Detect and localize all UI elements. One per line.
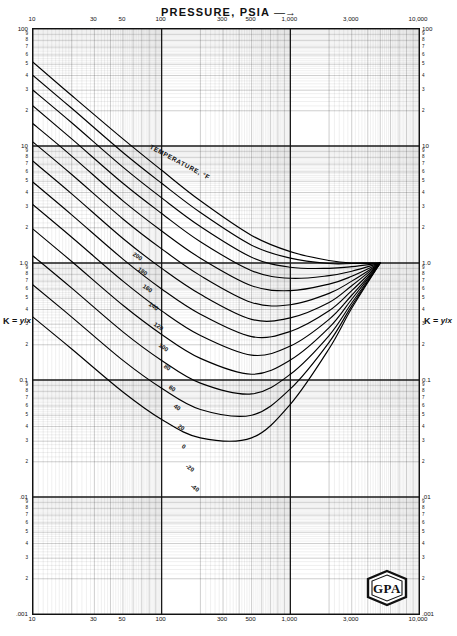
y-minor-tick-label: 3	[25, 438, 28, 443]
x-tick-label: 100	[155, 615, 165, 622]
y-minor-tick-label: 4	[422, 540, 425, 545]
y-minor-tick-label: 4	[25, 423, 28, 428]
y-minor-tick-label: 8	[25, 37, 28, 42]
x-tick-label: 1,000	[282, 615, 297, 622]
k-prefix-right: K =	[424, 316, 441, 326]
y-minor-tick-label: 3	[25, 555, 28, 560]
isotherm-curve	[33, 256, 380, 394]
x-tick-label: 50	[118, 615, 125, 622]
x-tick-label: 500	[245, 615, 255, 622]
y-minor-tick-label: 5	[25, 529, 28, 534]
y-minor-tick-label: 2	[422, 341, 425, 346]
gpa-logo: GPA	[364, 569, 410, 607]
y-minor-tick-label: 8	[25, 505, 28, 510]
y-axis-title-left: K = y/x	[3, 316, 31, 326]
y-minor-tick-label: 2	[25, 575, 28, 580]
y-minor-tick-label: 8	[25, 271, 28, 276]
y-minor-tick-label: 9	[25, 499, 28, 504]
x-tick-label: 300	[217, 615, 227, 622]
x-tick-label: 100	[155, 15, 165, 22]
y-minor-tick-label: 6	[422, 285, 425, 290]
y-minor-tick-label: 5	[25, 178, 28, 183]
y-minor-tick-label: 6	[422, 402, 425, 407]
y-tick-label: .001	[16, 610, 28, 617]
y-minor-tick-label: 7	[25, 395, 28, 400]
y-minor-tick-label: 5	[422, 61, 425, 66]
y-minor-tick-label: 9	[25, 382, 28, 387]
y-minor-tick-label: 3	[422, 438, 425, 443]
y-minor-tick-label: 2	[422, 575, 425, 580]
y-minor-tick-label: 9	[422, 499, 425, 504]
y-minor-tick-label: 3	[422, 555, 425, 560]
y-minor-tick-label: 7	[422, 161, 425, 166]
y-minor-tick-label: 9	[25, 148, 28, 153]
isotherm-curve	[33, 263, 380, 416]
y-minor-tick-label: 4	[25, 72, 28, 77]
y-minor-tick-label: 9	[422, 382, 425, 387]
y-minor-tick-label: 2	[25, 224, 28, 229]
isotherm-curve	[33, 205, 380, 356]
y-minor-tick-label: 2	[25, 458, 28, 463]
isotherm-curve	[33, 62, 380, 263]
y-minor-tick-label: 4	[422, 189, 425, 194]
y-minor-tick-label: 9	[422, 31, 425, 36]
y-minor-tick-label: 4	[25, 189, 28, 194]
y-minor-tick-label: 8	[25, 388, 28, 393]
y-minor-tick-label: 8	[25, 154, 28, 159]
x-tick-label: 3,000	[343, 615, 358, 622]
y-minor-tick-label: 7	[422, 44, 425, 49]
x-tick-label: 10	[29, 615, 36, 622]
plot-area	[32, 28, 420, 615]
y-minor-tick-label: 5	[422, 412, 425, 417]
y-minor-tick-label: 7	[422, 278, 425, 283]
k-prefix-left: K =	[3, 316, 20, 326]
y-minor-tick-label: 9	[25, 31, 28, 36]
y-minor-tick-label: 5	[25, 295, 28, 300]
y-minor-tick-label: 5	[25, 412, 28, 417]
x-tick-label: 50	[118, 15, 125, 22]
y-minor-tick-label: 4	[422, 423, 425, 428]
y-minor-tick-label: 7	[25, 44, 28, 49]
y-minor-tick-label: 2	[422, 107, 425, 112]
y-minor-tick-label: 6	[25, 51, 28, 56]
y-minor-tick-label: 6	[422, 51, 425, 56]
y-minor-tick-label: 7	[25, 512, 28, 517]
y-minor-tick-label: 7	[422, 395, 425, 400]
y-minor-tick-label: 7	[25, 278, 28, 283]
y-minor-tick-label: 4	[25, 306, 28, 311]
y-minor-tick-label: 9	[25, 265, 28, 270]
x-tick-label: 10,000	[409, 15, 428, 22]
y-minor-tick-label: 8	[422, 271, 425, 276]
y-minor-tick-label: 6	[422, 519, 425, 524]
y-minor-tick-label: 4	[422, 72, 425, 77]
x-tick-label: 1,000	[282, 15, 297, 22]
y-minor-tick-label: 6	[25, 168, 28, 173]
y-minor-tick-label: 6	[25, 402, 28, 407]
isotherm-curve	[33, 106, 380, 279]
isotherm-curve	[33, 142, 380, 306]
y-minor-tick-label: 4	[422, 306, 425, 311]
y-minor-tick-label: 8	[422, 388, 425, 393]
y-minor-tick-label: 8	[422, 154, 425, 159]
isotherm-curve	[33, 76, 380, 264]
y-minor-tick-label: 2	[422, 224, 425, 229]
y-minor-tick-label: 9	[422, 265, 425, 270]
k-denominator-left: x	[26, 316, 30, 325]
x-tick-label: 30	[90, 615, 97, 622]
y-minor-tick-label: 6	[422, 168, 425, 173]
y-minor-tick-label: 6	[25, 519, 28, 524]
x-tick-label: 500	[245, 15, 255, 22]
isotherm-curve	[33, 124, 380, 291]
y-minor-tick-label: 3	[422, 204, 425, 209]
y-minor-tick-label: 9	[422, 148, 425, 153]
x-axis-labels-bottom: 1030501003005001,0003,00010,000	[32, 615, 418, 627]
x-tick-label: 300	[217, 15, 227, 22]
y-tick-label: .001	[422, 610, 434, 617]
k-value-chart: PRESSURE, PSIA —→ 1030501003005001,0003,…	[0, 0, 457, 636]
x-axis-labels-top: 1030501003005001,0003,00010,000	[32, 15, 418, 27]
y-minor-tick-label: 5	[25, 61, 28, 66]
y-minor-tick-label: 4	[25, 540, 28, 545]
y-minor-tick-label: 8	[422, 505, 425, 510]
isotherm-curve	[33, 263, 380, 441]
isotherm-curve	[33, 161, 380, 321]
